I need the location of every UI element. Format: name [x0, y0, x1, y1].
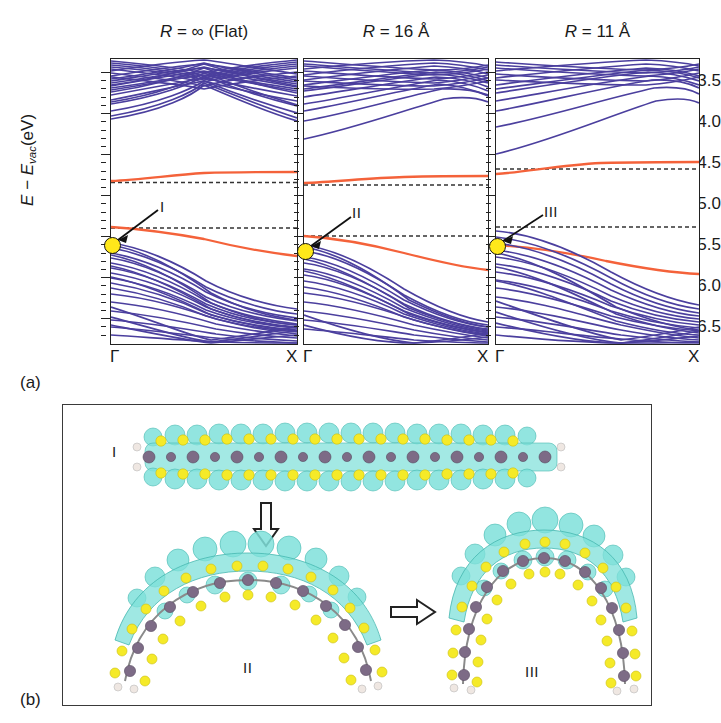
panel-title-3-var: R [565, 22, 577, 41]
panel-title-3: R = 11 Å [495, 22, 700, 42]
panel-b-structures: I [62, 404, 652, 706]
conduction-edge-red [111, 172, 297, 181]
panel-a-band-structures: E − Evac(eV) −3.5 −4.0 −4.5 −5.0 −5.5 −6… [0, 0, 721, 395]
y-axis-label-units: (eV) [18, 114, 37, 146]
panel-title-1: R = ∞ (Flat) [110, 22, 298, 42]
y-tick-marks-1 [101, 58, 111, 345]
panel-title-1-rest: = ∞ (Flat) [172, 22, 248, 41]
structure-III-curved [441, 510, 641, 695]
panel-title-2: R = 16 Å [303, 22, 489, 42]
structure-label-III: III [525, 663, 539, 680]
band-plot-flat-svg [111, 59, 297, 343]
x-tick-gamma-1: Γ [110, 348, 119, 365]
conduction-edge-red [496, 162, 699, 174]
structure-I-flat [131, 417, 571, 497]
marker-label-II: II [352, 204, 361, 221]
panel-title-1-var: R [160, 22, 172, 41]
marker-label-I: I [160, 198, 165, 215]
band-plot-r16 [303, 58, 489, 345]
panel-title-2-rest: = 16 Å [375, 22, 429, 41]
conduction-edge-bands [496, 80, 699, 154]
x-tick-gamma-2: Γ [303, 348, 312, 365]
marker-label-III: III [544, 203, 558, 220]
y-axis-label: E − Evac(eV) [18, 60, 38, 260]
y-axis-label-subscript: vac [26, 146, 38, 164]
subfigure-label-a: (a) [20, 373, 41, 393]
structure-label-I: I [112, 443, 117, 460]
conduction-bands [111, 60, 297, 121]
y-axis-label-text: E − E [18, 164, 37, 206]
y-tick-marks-3 [486, 58, 496, 345]
x-tick-x-2: X [477, 348, 488, 365]
band-plot-r11 [495, 58, 700, 345]
conduction-bands [304, 60, 488, 111]
structure-label-II: II [243, 659, 252, 676]
x-tick-x-3: X [688, 348, 699, 365]
valence-bands [304, 245, 488, 343]
arrow-right-icon [391, 597, 437, 627]
band-plot-r16-svg [304, 59, 488, 343]
panel-title-3-rest: = 11 Å [577, 22, 630, 41]
hydrogen-caps [114, 682, 382, 693]
subfigure-label-b: (b) [20, 690, 41, 710]
sulfur-atoms-inner [472, 567, 616, 688]
marker-point-II [297, 243, 314, 260]
x-tick-x-1: X [286, 348, 297, 365]
conduction-edge-bands [304, 89, 488, 139]
valence-bands [111, 243, 297, 343]
marker-point-I [104, 237, 121, 254]
y-tick-marks-2 [294, 58, 304, 345]
figure-root: E − Evac(eV) −3.5 −4.0 −4.5 −5.0 −5.5 −6… [0, 0, 721, 723]
conduction-edge-red [304, 176, 488, 183]
x-tick-gamma-3: Γ [495, 348, 504, 365]
band-plot-r11-svg [496, 59, 699, 343]
marker-point-III [489, 238, 506, 255]
panel-title-2-var: R [363, 22, 375, 41]
band-plot-flat [110, 58, 298, 345]
